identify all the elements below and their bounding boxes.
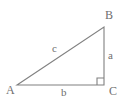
side-label-b: b — [61, 87, 67, 98]
side-label-a: a — [108, 50, 113, 61]
right-angle-marker-icon — [97, 78, 104, 85]
right-triangle-figure: A B C a b c — [0, 0, 126, 109]
triangle-outline — [17, 27, 104, 85]
vertex-label-a: A — [6, 84, 15, 96]
side-label-c: c — [52, 43, 57, 54]
vertex-label-b: B — [105, 9, 113, 21]
vertex-label-c: C — [109, 85, 117, 97]
